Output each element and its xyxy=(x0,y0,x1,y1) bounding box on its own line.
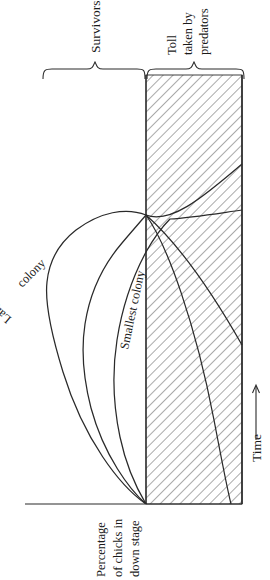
survivors-brace xyxy=(43,62,145,79)
time-axis-label-group: Time xyxy=(249,385,264,462)
y-axis-label-line2: of chicks in xyxy=(111,518,125,577)
toll-label-line1: Toll xyxy=(165,35,179,55)
largest-colony-label-line1: Largest xyxy=(0,291,14,326)
y-axis-label-line3: down stage xyxy=(128,520,142,577)
toll-label-line2: taken by xyxy=(181,12,195,55)
smallest-colony-label: Smallest colony xyxy=(117,269,148,351)
toll-label-line3: predators xyxy=(197,8,211,55)
figure-canvas: Survivors Toll taken by predators Time P… xyxy=(0,0,270,580)
largest-colony-label-line2: colony xyxy=(14,256,48,290)
y-axis-label-line1: Percentage xyxy=(94,522,108,577)
toll-taken-by-predators-region xyxy=(146,75,242,504)
survivors-label: Survivors xyxy=(88,0,103,53)
